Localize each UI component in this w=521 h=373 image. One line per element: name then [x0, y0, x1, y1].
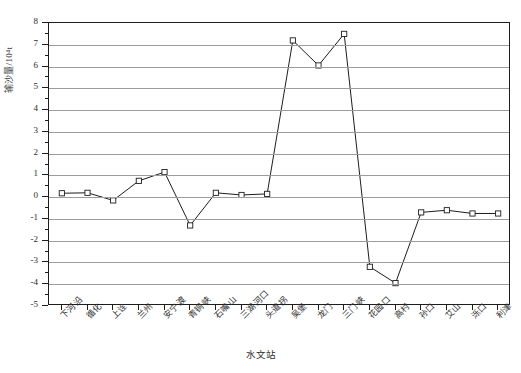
data-point-marker [444, 208, 449, 213]
data-point-marker [290, 38, 295, 43]
y-tick-mark-minor [45, 98, 48, 99]
y-tick-mark [42, 305, 48, 306]
y-tick-mark [42, 44, 48, 45]
gridline [49, 67, 509, 68]
data-point-marker [496, 211, 501, 216]
data-point-marker [162, 170, 167, 175]
gridline [49, 132, 509, 133]
data-point-marker [470, 211, 475, 216]
data-point-marker [213, 190, 218, 195]
y-tick-mark-minor [45, 120, 48, 121]
y-tick-mark-minor [45, 294, 48, 295]
y-tick-label: -1 [8, 213, 38, 222]
y-tick-mark [42, 131, 48, 132]
gridline [49, 241, 509, 242]
data-point-marker [265, 191, 270, 196]
y-tick-label: -5 [8, 300, 38, 309]
y-tick-mark-minor [45, 76, 48, 77]
y-tick-label: -2 [8, 235, 38, 244]
y-tick-mark [42, 196, 48, 197]
data-point-marker [59, 191, 64, 196]
series-polyline [62, 34, 498, 283]
y-tick-mark [42, 174, 48, 175]
gridline [49, 110, 509, 111]
gridline [49, 175, 509, 176]
y-tick-mark-minor [45, 229, 48, 230]
y-tick-mark-minor [45, 142, 48, 143]
gridline [49, 45, 509, 46]
y-tick-mark [42, 22, 48, 23]
data-point-marker [85, 190, 90, 195]
y-tick-label: 2 [8, 148, 38, 157]
x-axis-title: 水文站 [0, 347, 521, 361]
gridline [49, 88, 509, 89]
y-tick-mark [42, 218, 48, 219]
data-point-marker [419, 210, 424, 215]
y-tick-mark [42, 66, 48, 67]
y-tick-label: 8 [8, 17, 38, 26]
y-tick-label: 6 [8, 61, 38, 70]
data-point-marker [188, 223, 193, 228]
y-tick-mark-minor [45, 55, 48, 56]
data-point-marker [342, 31, 347, 36]
y-tick-label: 3 [8, 126, 38, 135]
y-tick-mark [42, 240, 48, 241]
data-point-marker [367, 264, 372, 269]
plot-area [48, 22, 510, 305]
gridline [49, 197, 509, 198]
y-tick-mark [42, 261, 48, 262]
y-tick-mark-minor [45, 272, 48, 273]
data-point-marker [111, 198, 116, 203]
y-tick-label: 5 [8, 82, 38, 91]
y-tick-label: -4 [8, 278, 38, 287]
data-point-marker [136, 178, 141, 183]
y-tick-label: 0 [8, 191, 38, 200]
y-tick-mark [42, 109, 48, 110]
series-line [49, 23, 511, 306]
y-tick-label: 1 [8, 169, 38, 178]
y-tick-mark-minor [45, 207, 48, 208]
y-tick-mark-minor [45, 185, 48, 186]
gridline [49, 262, 509, 263]
sediment-load-line-chart: 输沙量/10⁴t 水文站 876543210-1-2-3-4-5下河沿循化上诠兰… [0, 0, 521, 373]
gridline [49, 219, 509, 220]
y-tick-label: -3 [8, 256, 38, 265]
y-tick-mark-minor [45, 33, 48, 34]
y-tick-mark-minor [45, 251, 48, 252]
gridline [49, 154, 509, 155]
y-tick-mark-minor [45, 164, 48, 165]
y-tick-label: 7 [8, 39, 38, 48]
y-tick-mark [42, 87, 48, 88]
y-tick-mark [42, 283, 48, 284]
y-tick-mark [42, 153, 48, 154]
gridline [49, 284, 509, 285]
y-tick-label: 4 [8, 104, 38, 113]
